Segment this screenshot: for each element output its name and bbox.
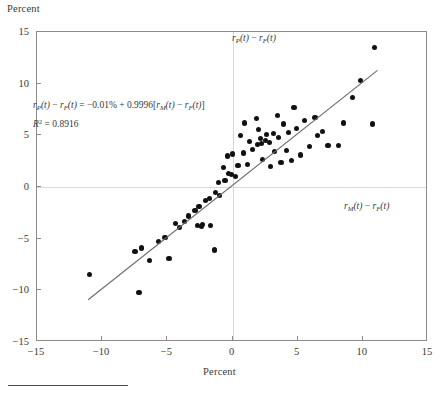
scatter-plot-figure: Percent −15−10−5051015−15−10−5051015 rP(… [0,0,439,403]
x-axis-tick-label: −5 [146,346,186,357]
y-axis-caption: Percent [7,3,40,14]
data-point [136,290,141,295]
zero-line-horizontal [37,187,426,188]
regression-equation-annotation: rP(t) − rF(t) = −0.01% + 0.9996[rM(t) − … [33,98,205,131]
data-point [289,158,294,163]
data-point [241,150,246,155]
data-point [312,115,317,120]
zero-line-vertical [233,32,234,340]
y-axis-tick [36,186,41,187]
data-point [166,256,171,261]
horizontal-axis-annotation: rM(t) − rF(t) [344,201,389,212]
y-axis-tick-label: 0 [1,181,29,192]
data-point [275,113,280,118]
x-axis-tick-label: 5 [277,346,317,357]
data-point [341,120,346,125]
data-point [350,95,355,100]
x-axis-tick-label: 10 [342,346,382,357]
data-point [235,163,240,168]
data-point [182,219,187,224]
data-point [192,208,197,213]
data-point [222,178,227,183]
data-point [370,121,375,126]
data-point [242,120,247,125]
y-axis-tick-label: −5 [1,232,29,243]
x-axis-tick [362,336,363,341]
data-point [132,249,137,254]
data-point [230,151,235,156]
x-axis-tick [101,336,102,341]
data-point [278,160,283,165]
data-point [162,235,167,240]
y-axis-tick-label: −10 [1,284,29,295]
footnote-rule [8,385,128,386]
data-point [267,140,272,145]
y-axis-tick-label: 5 [1,129,29,140]
plot-area [36,31,427,341]
data-point [325,143,330,148]
x-axis-caption: Percent [0,366,439,377]
x-axis-tick [297,336,298,341]
y-axis-tick [36,238,41,239]
data-point [281,121,286,126]
y-axis-tick-label: 15 [1,26,29,37]
data-point [294,126,299,131]
x-axis-tick [232,336,233,341]
y-axis-tick-label: 10 [1,77,29,88]
x-axis-tick-label: −10 [81,346,121,357]
vertical-axis-annotation: rP(t) − rF(t) [232,33,276,44]
equation-line-2: R2 = 0.8916 [33,115,205,131]
x-axis-tick-label: 15 [407,346,439,357]
data-point [245,162,250,167]
data-point [177,225,182,230]
data-point [186,213,191,218]
data-point [212,247,217,252]
y-axis-tick-label: −15 [1,336,29,347]
data-point [147,258,152,263]
data-point [298,152,303,157]
data-point [207,196,212,201]
x-axis-tick-label: −15 [16,346,56,357]
y-axis-tick [36,83,41,84]
y-axis-tick [36,134,41,135]
data-point [276,135,281,140]
data-point [196,204,201,209]
data-point [315,133,320,138]
y-axis-tick [36,289,41,290]
data-point [291,105,296,110]
data-point [139,245,144,250]
data-point [271,131,276,136]
x-axis-tick-label: 0 [212,346,252,357]
equation-line-1: rP(t) − rF(t) = −0.01% + 0.9996[rM(t) − … [33,98,205,115]
x-axis-tick [166,336,167,341]
